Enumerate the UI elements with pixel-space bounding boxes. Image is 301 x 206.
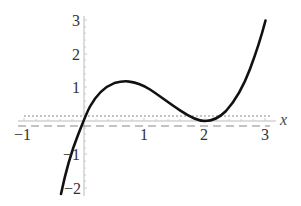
x-axis-ticks [24, 118, 265, 121]
y-tick-label-2: 2 [72, 46, 80, 63]
x-axis-label: x [279, 111, 287, 128]
y-tick-label-neg2: −2 [64, 180, 81, 197]
y-tick-label-3: 3 [72, 12, 80, 29]
x-tick-label-3: 3 [261, 126, 269, 143]
x-tick-label-2: 2 [200, 126, 208, 143]
y-tick-label-1: 1 [72, 79, 80, 96]
y-tick-label-neg1: −1 [63, 146, 80, 163]
x-tick-label-1: 1 [140, 126, 148, 143]
x-tick-label-neg1: −1 [14, 126, 31, 143]
chart-canvas: 3 2 1 −1 −2 −1 1 2 3 x [0, 0, 301, 206]
function-curve [61, 21, 266, 195]
